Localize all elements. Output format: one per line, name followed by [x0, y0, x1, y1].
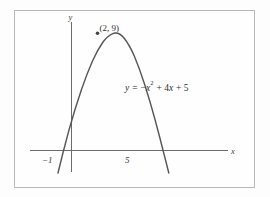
equation-exponent: 2 — [150, 79, 153, 86]
equation-term2: + 4 — [156, 83, 169, 93]
vertex-label: (2, 9) — [100, 23, 120, 33]
y-axis-label: y — [68, 12, 73, 22]
equation-term3: + 5 — [176, 83, 189, 93]
x-axis-label: x — [230, 146, 235, 156]
root-right-label: 5 — [125, 155, 130, 165]
equation-var2: x — [168, 83, 174, 93]
parabola-graph: y x (2, 9) −1 5 y=−x2+ 4x+ 5 — [0, 0, 270, 197]
figure-root: y x (2, 9) −1 5 y=−x2+ 4x+ 5 — [0, 0, 270, 197]
equation-annotation: y=−x2+ 4x+ 5 — [124, 79, 189, 94]
equation-equals: = — [132, 83, 137, 93]
equation-lhs: y — [124, 83, 130, 93]
root-left-label: −1 — [42, 155, 53, 165]
parabola-curve-element — [58, 33, 169, 173]
